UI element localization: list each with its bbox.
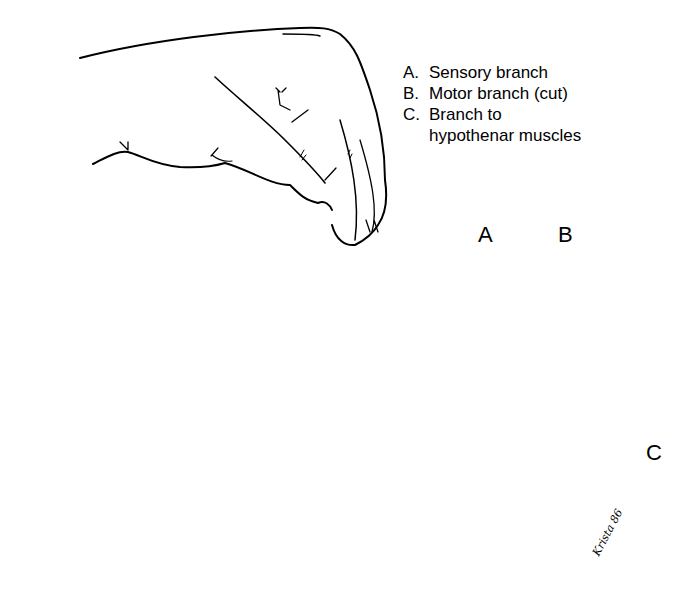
legend-key: B. (403, 83, 429, 104)
legend-key: C. (403, 104, 429, 125)
legend-text: Sensory branch (429, 62, 548, 83)
legend: A. Sensory branch B. Motor branch (cut) … (403, 62, 581, 146)
legend-item-c: C. Branch to (403, 104, 581, 125)
legend-item-a: A. Sensory branch (403, 62, 581, 83)
legend-item-c-continuation: hypothenar muscles (403, 125, 581, 146)
legend-text: Branch to (429, 104, 502, 125)
legend-text: Motor branch (cut) (429, 83, 568, 104)
flexed-hand-side-view (80, 28, 386, 245)
callout-c: C (646, 440, 662, 466)
legend-item-b: B. Motor branch (cut) (403, 83, 581, 104)
legend-key: A. (403, 62, 429, 83)
callout-b: B (558, 222, 573, 248)
callout-a: A (478, 222, 493, 248)
